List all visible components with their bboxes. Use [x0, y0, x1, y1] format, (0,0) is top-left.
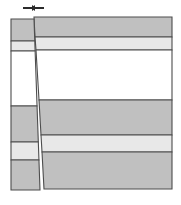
left-column-band-l1 — [11, 19, 35, 41]
right-panel-band-r4 — [39, 100, 172, 135]
right-panel-band-r2 — [35, 37, 172, 50]
left-column-band-l5 — [11, 142, 39, 160]
marker-left-dash — [23, 7, 32, 9]
figure-root: Two-column stratigraphic cross-section — [0, 0, 181, 205]
left-column-band-l4 — [11, 106, 38, 142]
cross-section-diagram — [0, 0, 181, 205]
left-column-band-l2 — [11, 41, 35, 51]
left-column-band-l6 — [11, 160, 40, 190]
right-panel-band-r6 — [42, 152, 172, 189]
right-wide-panel — [34, 17, 172, 189]
right-panel-band-r5 — [41, 135, 172, 152]
marker-right-dash — [35, 7, 44, 9]
left-column-band-l3 — [11, 51, 37, 106]
right-panel-band-r3 — [36, 50, 172, 100]
right-panel-band-r1 — [34, 17, 172, 37]
